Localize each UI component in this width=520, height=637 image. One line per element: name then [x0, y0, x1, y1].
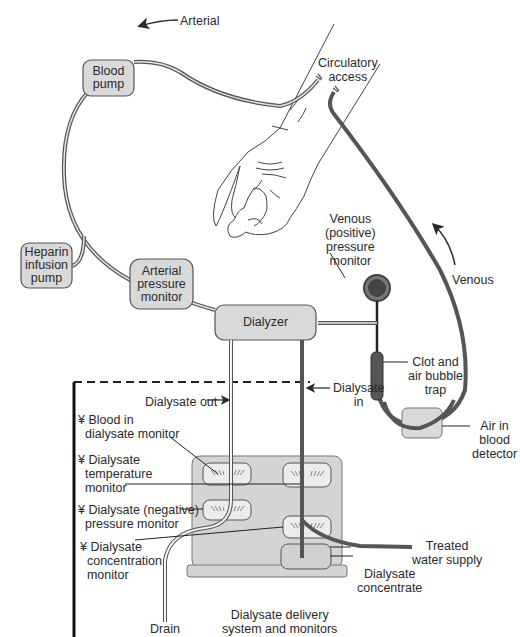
arterial-monitor-label: Arterial pressure monitor: [130, 259, 193, 309]
arterial-label: Arterial: [180, 14, 220, 28]
blood-in-dialysate-monitor: [203, 463, 251, 485]
air-detector-label: Air in blood detector: [472, 419, 517, 461]
blood-pump-label: Blood pump: [83, 60, 134, 96]
negative-pressure-label: ¥ Dialysate (negative) pressure monitor: [78, 503, 199, 531]
venous-pressure-monitor: [364, 275, 390, 301]
delivery-system-label: Dialysate delivery system and monitors: [222, 608, 337, 636]
temperature-monitor-label: ¥ Dialysate temperature monitor: [78, 453, 152, 495]
concentration-monitor-label: ¥ Dialysate concentration monitor: [80, 540, 162, 582]
dialyzer-label: Dialyzer: [215, 305, 316, 340]
dialysate-in-label: Dialysate in: [333, 381, 384, 409]
concentrate-container: [281, 544, 331, 569]
temperature-monitor: [283, 463, 331, 487]
heparin-pump-label: Heparin infusion pump: [21, 243, 72, 288]
dialysate-out-label: Dialysate out: [145, 395, 217, 409]
drain-label: Drain: [150, 622, 180, 636]
venous-label: Venous: [452, 273, 494, 287]
circulatory-access-label: Circulatory access: [318, 56, 378, 84]
treated-water-label: Treated water supply: [412, 539, 482, 567]
clot-trap-label: Clot and air bubble trap: [408, 355, 463, 397]
concentrate-label: Dialysate concentrate: [357, 567, 422, 595]
blood-in-dialysate-label: ¥ Blood in dialysate monitor: [78, 413, 179, 441]
venous-monitor-label: Venous (positive) pressure monitor: [325, 212, 376, 268]
